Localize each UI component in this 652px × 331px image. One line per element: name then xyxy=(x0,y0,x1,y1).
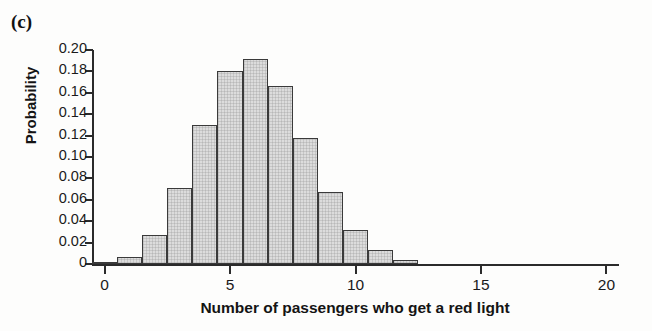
y-tick-label: 0.04 xyxy=(59,211,87,227)
x-tick-mark xyxy=(605,266,607,274)
histogram-bar xyxy=(192,125,217,264)
x-axis-title: Number of passengers who get a red light xyxy=(92,299,618,317)
histogram-bar xyxy=(368,250,393,264)
y-tick-label: 0.16 xyxy=(59,83,87,99)
histogram-bar xyxy=(268,86,293,264)
histogram-bar xyxy=(318,192,343,264)
x-tick-label: 0 xyxy=(100,276,109,294)
y-tick-label: 0.02 xyxy=(59,233,87,249)
y-tick-label: 0.06 xyxy=(59,190,87,206)
x-tick-mark xyxy=(480,266,482,274)
histogram-bar xyxy=(393,260,418,264)
y-tick-label: 0.08 xyxy=(59,168,87,184)
x-tick-label: 20 xyxy=(598,276,615,294)
y-tick-label: 0.12 xyxy=(59,126,87,142)
histogram-bar xyxy=(167,188,192,264)
histogram-bar xyxy=(343,230,368,264)
histogram-bar xyxy=(217,71,242,264)
x-tick-mark xyxy=(229,266,231,274)
y-tick-label: 0 xyxy=(79,254,87,270)
y-tick-label: 0.20 xyxy=(59,40,87,56)
histogram-bar xyxy=(92,262,117,264)
histogram-bar xyxy=(117,257,142,264)
x-tick-label: 10 xyxy=(347,276,364,294)
x-tick-label: 15 xyxy=(472,276,489,294)
y-tick-label: 0.10 xyxy=(59,147,87,163)
plot-area: 00.020.040.060.080.100.120.140.160.180.2… xyxy=(92,50,620,266)
y-axis-title: Probability xyxy=(22,46,39,166)
histogram-figure: (c) Probability 00.020.040.060.080.100.1… xyxy=(0,0,652,331)
x-tick-label: 5 xyxy=(226,276,235,294)
panel-label: (c) xyxy=(11,11,32,33)
x-tick-mark xyxy=(355,266,357,274)
histogram-bar xyxy=(142,235,167,264)
y-tick-label: 0.18 xyxy=(59,61,87,77)
x-tick-mark xyxy=(104,266,106,274)
y-tick-label: 0.14 xyxy=(59,104,87,120)
histogram-bar xyxy=(293,138,318,264)
histogram-bar xyxy=(243,59,268,264)
